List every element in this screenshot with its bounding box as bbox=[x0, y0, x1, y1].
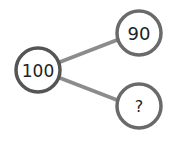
number-bond-diagram: 100 90 ? bbox=[0, 0, 173, 143]
connector-line-top bbox=[60, 40, 117, 62]
whole-node: 100 bbox=[16, 48, 60, 92]
whole-label: 100 bbox=[22, 61, 54, 81]
part-bottom-label: ? bbox=[135, 97, 144, 116]
part-node-top: 90 bbox=[117, 11, 161, 55]
connector-line-bottom bbox=[60, 78, 117, 100]
part-top-label: 90 bbox=[128, 23, 151, 44]
part-node-bottom: ? bbox=[117, 84, 161, 128]
